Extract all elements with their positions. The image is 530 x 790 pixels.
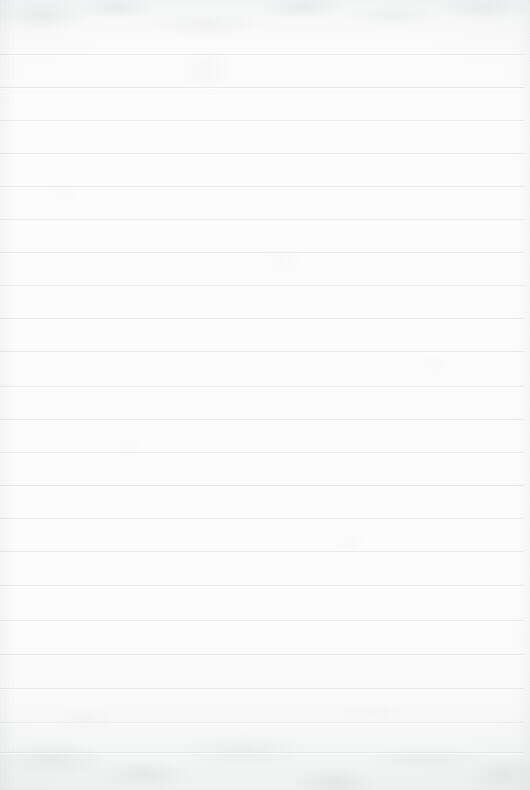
page-content-area[interactable] <box>0 0 530 790</box>
lined-paper-page <box>0 0 530 790</box>
